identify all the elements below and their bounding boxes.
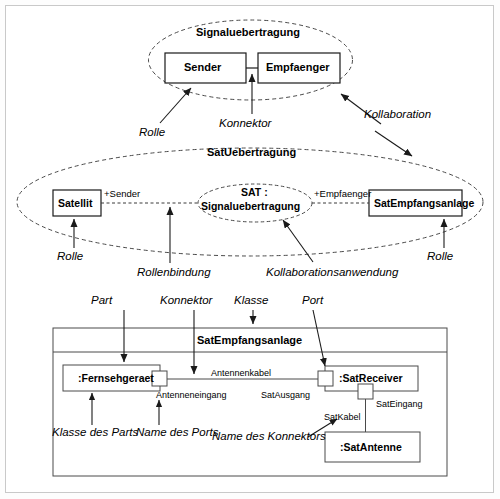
rolebinding-label-empfaenger: +Empfaenger (314, 188, 371, 199)
role-label-sender: Sender (184, 61, 221, 73)
part-label-fernsehgeraet: :Fernsehgeraet (78, 372, 154, 384)
port-label-antenneneingang: Antenneneingang (156, 390, 227, 400)
leader-rolle-top (160, 88, 191, 123)
port-label-satausgang: SatAusgang (261, 390, 310, 400)
classifier-label-satellit: Satellit (58, 197, 92, 209)
annotation-rolle-right: Rolle (427, 250, 453, 262)
annotation-konnektor-top: Konnektor (219, 117, 271, 129)
annotation-name-des-ports: Name des Ports (136, 426, 218, 438)
annotation-rolle-left: Rolle (57, 250, 83, 262)
collaboration-use-inner-line1: SAT : (241, 186, 268, 198)
annotation-part: Part (91, 294, 112, 306)
port-satausgang (318, 371, 333, 386)
diagram-canvas: Signaluebertragung Sender Empfaenger Rol… (0, 0, 500, 499)
rolebinding-label-sender: +Sender (104, 188, 140, 199)
annotation-rollenbindung: Rollenbindung (137, 266, 211, 278)
role-label-empfaenger: Empfaenger (266, 61, 330, 73)
annotation-kollaboration: Kollaboration (364, 108, 431, 120)
classifier-label-satempfangsanlage: SatEmpfangsanlage (374, 197, 474, 209)
collaboration-use-inner-line2: Signaluebertragung (201, 200, 300, 212)
part-label-satreceiver: :SatReceiver (339, 372, 403, 384)
part-label-satantenne: :SatAntenne (340, 441, 402, 453)
composite-class-title: SatEmpfangsanlage (197, 334, 302, 346)
port-antenneneingang (152, 371, 167, 386)
annotation-kollaborationsanwendung: Kollaborationsanwendung (266, 266, 398, 278)
leader-kollaboration-lower (375, 131, 412, 156)
annotation-klasse: Klasse (234, 294, 269, 306)
annotation-port: Port (302, 294, 323, 306)
port-label-sateingang: SatEingang (376, 399, 423, 409)
port-sateingang (358, 384, 373, 399)
annotation-klasse-des-parts: Klasse des Parts (52, 426, 138, 438)
annotation-konnektor-mid: Konnektor (160, 294, 212, 306)
collaboration-use-title: SatUebertragung (207, 146, 296, 158)
connector-label-antennenkabel: Antennenkabel (211, 368, 271, 378)
collaboration-template-title: Signaluebertragung (196, 26, 300, 38)
annotation-name-des-konnektors: Name des Konnektors (212, 430, 326, 442)
annotation-rolle-top: Rolle (139, 126, 165, 138)
connector-label-satkabel: SatKabel (324, 412, 361, 422)
